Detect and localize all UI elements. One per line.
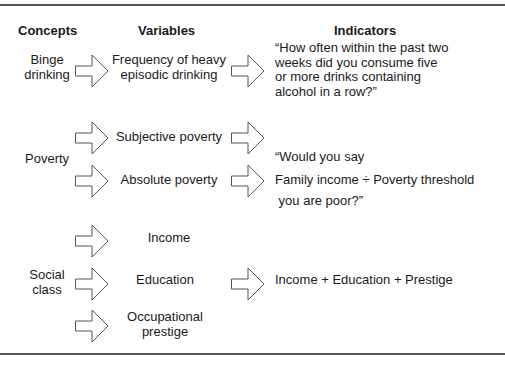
variable-line: episodic drinking [110,68,228,83]
arrow-icon [231,54,265,88]
indicator-line: alcohol in a row?” [275,85,448,100]
arrow-icon [75,267,109,301]
indicator-line: “Would you say [275,150,364,165]
arrow-icon [75,164,109,198]
indicator-line: or more drinks containing [275,70,448,85]
variable-line: Frequency of heavy [110,53,228,68]
arrow-icon [231,164,265,198]
concept-line: Binge [22,53,72,68]
arrow-icon [75,309,109,343]
variable-income: Income [110,231,228,246]
concept-social-class: Social class [22,268,72,297]
concept-binge-drinking: Binge drinking [22,53,72,82]
variable-education: Education [106,273,224,288]
header-variables: Variables [138,24,195,39]
variable-absolute-poverty: Absolute poverty [110,173,228,188]
indicator-line: weeks did you consume five [275,56,448,71]
arrow-icon [75,121,109,155]
variable-subjective-poverty: Subjective poverty [110,130,228,145]
bottom-rule [0,353,505,355]
variable-line: Occupational [106,310,224,325]
indicator-absolute-formula: Family income ÷ Poverty threshold [275,173,474,188]
concept-poverty: Poverty [25,152,69,167]
top-rule [0,4,505,6]
indicator-binge-question: “How often within the past two weeks did… [275,41,448,99]
indicator-social-class-index: Income + Education + Prestige [275,273,453,288]
variable-frequency-heavy-episodic-drinking: Frequency of heavy episodic drinking [110,53,228,82]
arrow-icon [75,54,109,88]
arrow-icon [231,267,265,301]
variable-occupational-prestige: Occupational prestige [106,310,224,339]
indicator-line: “How often within the past two [275,41,448,56]
arrow-icon [231,121,265,155]
header-indicators: Indicators [334,24,396,39]
arrow-icon [75,224,109,258]
concept-line: class [22,283,72,298]
indicator-line: you are poor?” [275,194,364,209]
concept-line: Social [22,268,72,283]
concept-line: drinking [22,68,72,83]
header-concepts: Concepts [18,24,77,39]
variable-line: prestige [106,325,224,340]
